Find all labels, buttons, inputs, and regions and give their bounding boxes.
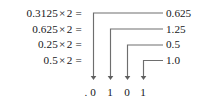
connector-row-3	[128, 45, 164, 78]
connector-row-2	[111, 29, 164, 78]
binary-digit: 0	[87, 84, 99, 100]
result-column: 0.625 1.25 0.5 1.0	[166, 6, 203, 68]
result-value: 1.0	[166, 53, 203, 69]
connector-row-4	[144, 61, 164, 79]
binary-digit: 1	[104, 84, 116, 100]
result-value: 0.625	[166, 6, 203, 22]
binary-conversion-figure: 0.3125×2= 0.625×2= 0.25×2= 0.5×2= 0.625 …	[0, 0, 203, 104]
result-value: 1.25	[166, 22, 203, 38]
binary-digit: 1	[137, 84, 149, 100]
binary-digit: 0	[121, 84, 133, 100]
result-value: 0.5	[166, 37, 203, 53]
